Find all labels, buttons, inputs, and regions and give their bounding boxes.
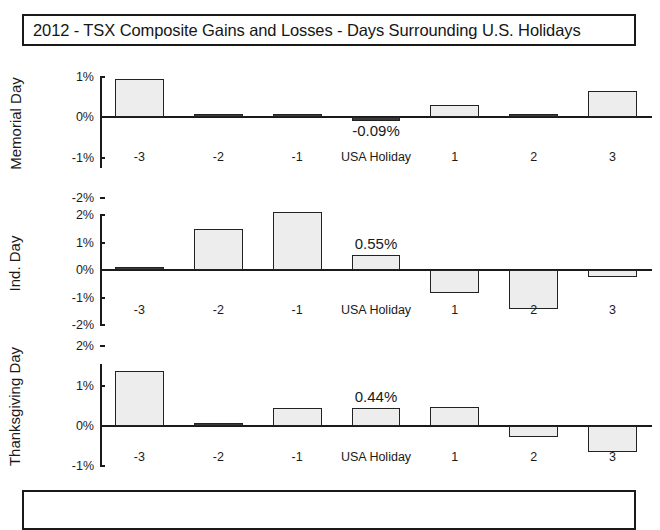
chart-panel: Ind. Day2%1%0%-1%-2%-3-2-1USA Holiday123… bbox=[0, 198, 660, 328]
bar bbox=[352, 408, 401, 426]
y-axis-labels: 2%1%0%-1% bbox=[54, 340, 94, 472]
bar bbox=[194, 229, 243, 270]
x-axis-tick-label: -2 bbox=[213, 303, 224, 317]
plot-area: 2%1%0%-1%-2%-3-2-1USA Holiday1230.55% bbox=[0, 198, 660, 328]
x-axis-tick-label: 3 bbox=[609, 150, 616, 164]
chart-panel: Memorial Day1%0%-1%-2%-3-2-1USA Holiday1… bbox=[0, 62, 660, 184]
x-axis-tick-label: 3 bbox=[609, 303, 616, 317]
y-axis-tick bbox=[100, 214, 105, 216]
bar bbox=[509, 114, 558, 117]
y-axis-tick bbox=[100, 242, 105, 244]
bar bbox=[588, 91, 637, 117]
x-axis-tick-label: -2 bbox=[213, 450, 224, 464]
y-axis-line bbox=[100, 364, 102, 466]
value-annotation: 0.44% bbox=[355, 388, 398, 405]
x-axis-tick-label: 2 bbox=[530, 450, 537, 464]
x-axis-tick-label: USA Holiday bbox=[341, 450, 411, 464]
value-annotation: -0.09% bbox=[352, 122, 400, 139]
y-axis-line bbox=[100, 76, 102, 168]
y-axis-tick-label: 2% bbox=[76, 208, 94, 222]
plot-area: 2%1%0%-1%-3-2-1USA Holiday1230.44% bbox=[0, 340, 660, 472]
footer-box bbox=[22, 490, 636, 530]
x-axis-tick-label: -1 bbox=[292, 450, 303, 464]
x-axis-tick-label: USA Holiday bbox=[341, 150, 411, 164]
y-axis-tick bbox=[100, 76, 105, 78]
y-axis-tick-label: 1% bbox=[76, 379, 94, 393]
x-axis-tick-label: -3 bbox=[134, 150, 145, 164]
bar bbox=[273, 408, 322, 426]
bar bbox=[588, 270, 637, 277]
bar bbox=[115, 79, 164, 117]
y-axis-tick-label: -2% bbox=[72, 318, 94, 332]
bar bbox=[430, 105, 479, 117]
y-axis-tick-label: 1% bbox=[76, 236, 94, 250]
chart-title-box: 2012 - TSX Composite Gains and Losses - … bbox=[22, 14, 636, 46]
bar bbox=[194, 114, 243, 117]
x-axis-tick-label: USA Holiday bbox=[341, 303, 411, 317]
page-title: 2012 - TSX Composite Gains and Losses - … bbox=[33, 21, 581, 40]
x-axis-tick-label: 2 bbox=[530, 150, 537, 164]
y-axis-tick-label: 0% bbox=[76, 263, 94, 277]
x-axis-tick-label: 1 bbox=[451, 150, 458, 164]
y-axis-tick-label: 1% bbox=[76, 70, 94, 84]
x-axis-tick-label: 1 bbox=[451, 450, 458, 464]
chart-panel: Thanksgiving Day2%1%0%-1%-3-2-1USA Holid… bbox=[0, 340, 660, 472]
x-axis-tick-label: 3 bbox=[609, 450, 616, 464]
x-axis-tick-label: -1 bbox=[292, 303, 303, 317]
x-axis-tick-label: 1 bbox=[451, 303, 458, 317]
x-axis-tick-label: 2 bbox=[530, 303, 537, 317]
y-axis-labels: 1%0%-1%-2% bbox=[54, 62, 94, 184]
bar bbox=[273, 114, 322, 117]
y-axis-tick-label: 2% bbox=[76, 339, 94, 353]
bar bbox=[430, 270, 479, 293]
bar bbox=[352, 117, 401, 121]
x-axis-tick-label: -2 bbox=[213, 150, 224, 164]
bar bbox=[273, 212, 322, 270]
y-axis-tick bbox=[100, 465, 105, 467]
y-axis-tick-label: -1% bbox=[72, 151, 94, 165]
bar bbox=[115, 267, 164, 270]
y-axis-tick bbox=[100, 385, 105, 387]
y-axis-tick bbox=[100, 324, 105, 326]
bar bbox=[509, 426, 558, 437]
y-axis-tick bbox=[100, 345, 105, 347]
x-axis-tick-label: -3 bbox=[134, 303, 145, 317]
y-axis-tick bbox=[100, 157, 105, 159]
y-axis-tick bbox=[100, 297, 105, 299]
bar bbox=[430, 407, 479, 426]
y-axis-tick-label: 0% bbox=[76, 419, 94, 433]
bar bbox=[352, 255, 401, 270]
y-axis-tick-label: 0% bbox=[76, 110, 94, 124]
bar bbox=[115, 371, 164, 426]
bar bbox=[588, 426, 637, 452]
y-axis-tick-label: -1% bbox=[72, 291, 94, 305]
bar bbox=[194, 423, 243, 426]
x-axis-tick-label: -3 bbox=[134, 450, 145, 464]
plot-area: 1%0%-1%-2%-3-2-1USA Holiday123-0.09% bbox=[0, 62, 660, 184]
y-axis-labels: 2%1%0%-1%-2% bbox=[54, 198, 94, 328]
x-axis-tick-label: -1 bbox=[292, 150, 303, 164]
y-axis-tick-label: -1% bbox=[72, 459, 94, 473]
value-annotation: 0.55% bbox=[355, 235, 398, 252]
